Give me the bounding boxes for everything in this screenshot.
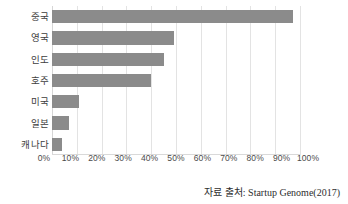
bar-row [52,116,300,129]
bar [52,116,69,129]
category-label: 인도 [8,54,52,65]
plot-region: 중국 영국 인도 호주 미국 일본 캐나다 [8,6,340,162]
source-note: 자료 출처: Startup Genome(2017) [204,186,340,199]
x-tick-label: 40% [141,152,158,164]
bar-row [52,95,300,108]
bar [52,53,164,66]
x-tick-label: 100% [297,152,319,164]
x-tick-label: 90% [273,152,290,164]
bar-series [52,6,300,155]
category-label: 일본 [8,118,52,129]
bar [52,95,79,108]
gridline [300,6,301,155]
bar [52,74,151,87]
x-tick-label: 80% [247,152,264,164]
bar-row [52,53,300,66]
x-axis-tick-labels: 0%10%20%30%40%50%60%70%80%90%100% [44,152,308,166]
bar [52,10,293,23]
category-label: 캐나다 [8,139,52,150]
bar [52,31,174,44]
bar [52,138,62,151]
category-label: 중국 [8,11,52,22]
x-tick-label: 10% [62,152,79,164]
bar-row [52,31,300,44]
x-tick-label: 60% [194,152,211,164]
bar-row [52,10,300,23]
bar-row [52,138,300,151]
plot-area [52,6,300,155]
category-label: 미국 [8,96,52,107]
x-tick-label: 70% [220,152,237,164]
x-tick-label: 20% [88,152,105,164]
category-label: 영국 [8,32,52,43]
x-tick-label: 50% [167,152,184,164]
bar-row [52,74,300,87]
category-axis-labels: 중국 영국 인도 호주 미국 일본 캐나다 [8,6,52,155]
x-tick-label: 0% [38,152,51,164]
x-tick-label: 30% [115,152,132,164]
category-label: 호주 [8,75,52,86]
bar-chart-figure: 중국 영국 인도 호주 미국 일본 캐나다 0%10%20%30%40%50%6… [0,0,348,204]
